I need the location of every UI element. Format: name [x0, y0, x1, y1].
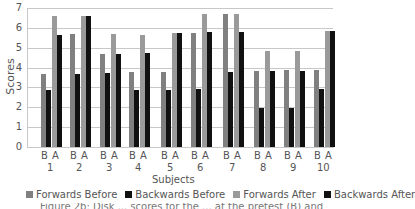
- bar: [46, 90, 51, 147]
- legend-item: Backwards After: [324, 189, 415, 200]
- y-tick-label: 6: [12, 23, 22, 33]
- x-sublabel: B: [100, 151, 107, 161]
- y-tick-label: 4: [12, 63, 22, 73]
- x-sublabel: A: [111, 151, 118, 161]
- legend-swatch-icon: [26, 191, 33, 198]
- x-sublabel: A: [234, 151, 241, 161]
- x-sublabel: B: [191, 151, 198, 161]
- bar: [207, 32, 212, 147]
- legend-swatch-icon: [233, 191, 240, 198]
- legend-swatch-icon: [125, 191, 132, 198]
- bar: [319, 89, 324, 147]
- x-axis-title: Subjects: [152, 174, 195, 185]
- bar: [330, 31, 335, 147]
- x-sublabel: B: [254, 151, 261, 161]
- legend-label: Backwards After: [334, 189, 415, 200]
- x-sublabel: A: [295, 151, 302, 161]
- legend-label: Forwards Before: [36, 189, 117, 200]
- bar: [300, 71, 305, 147]
- x-category-label: 2: [76, 163, 82, 173]
- x-category-label: 5: [167, 163, 173, 173]
- x-sublabel: A: [140, 151, 147, 161]
- figure-caption: Figure 2b: Disk ... scores for the ... a…: [0, 203, 356, 209]
- x-sublabel: B: [223, 151, 230, 161]
- bar: [259, 108, 264, 147]
- bar: [105, 73, 110, 147]
- bar: [57, 35, 62, 147]
- legend-label: Backwards Before: [135, 189, 225, 200]
- y-tick-label: 1: [12, 122, 22, 132]
- caption-text: Figure 2b: Disk ... scores for the ... a…: [0, 203, 323, 209]
- bar: [228, 72, 233, 147]
- x-category-label: 9: [290, 163, 296, 173]
- legend: Forwards BeforeBackwards BeforeForwards …: [26, 189, 415, 200]
- legend-swatch-icon: [324, 191, 331, 198]
- bar: [196, 89, 201, 147]
- y-tick-label: 0: [12, 142, 22, 152]
- y-tick-label: 5: [12, 43, 22, 53]
- x-category-label: 3: [106, 163, 112, 173]
- x-sublabel: B: [41, 151, 48, 161]
- legend-item: Forwards Before: [26, 189, 117, 200]
- bar: [116, 54, 121, 147]
- y-tick-label: 7: [12, 3, 22, 13]
- x-category-label: 7: [229, 163, 235, 173]
- x-sublabel: A: [172, 151, 179, 161]
- x-category-label: 10: [317, 163, 330, 173]
- x-sublabel: A: [52, 151, 59, 161]
- x-sublabel: B: [129, 151, 136, 161]
- bar: [75, 74, 80, 147]
- bar: [270, 71, 275, 147]
- x-sublabel: B: [284, 151, 291, 161]
- bar: [145, 53, 150, 147]
- y-tick-label: 2: [12, 102, 22, 112]
- x-sublabel: B: [314, 151, 321, 161]
- x-category-label: 4: [135, 163, 141, 173]
- bar: [134, 90, 139, 147]
- x-sublabel: B: [70, 151, 77, 161]
- x-sublabel: A: [265, 151, 272, 161]
- x-sublabel: A: [81, 151, 88, 161]
- x-category-label: 1: [47, 163, 53, 173]
- bar: [166, 90, 171, 147]
- x-category-label: 6: [197, 163, 203, 173]
- bar: [289, 108, 294, 147]
- legend-item: Backwards Before: [125, 189, 225, 200]
- x-sublabel: A: [325, 151, 332, 161]
- legend-item: Forwards After: [233, 189, 316, 200]
- y-tick-label: 3: [12, 82, 22, 92]
- bar: [86, 16, 91, 147]
- x-category-label: 8: [260, 163, 266, 173]
- x-sublabel: B: [161, 151, 168, 161]
- bar: [177, 33, 182, 147]
- legend-label: Forwards After: [243, 189, 316, 200]
- bar: [239, 32, 244, 147]
- x-sublabel: A: [202, 151, 209, 161]
- plot-area: [27, 8, 334, 148]
